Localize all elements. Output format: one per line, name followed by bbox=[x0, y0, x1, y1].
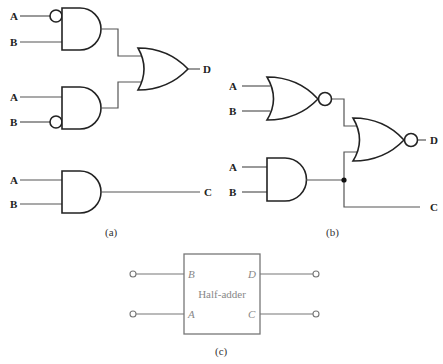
inverter-bubble-icon bbox=[405, 134, 418, 147]
figure-c-caption: (c) bbox=[215, 345, 228, 358]
port-label-c: C bbox=[248, 308, 256, 320]
output-label-d: D bbox=[430, 134, 438, 146]
inverter-bubble-icon bbox=[319, 93, 332, 106]
input-label-a: A bbox=[229, 161, 237, 173]
terminal-icon bbox=[130, 311, 136, 317]
input-label-a: A bbox=[10, 10, 18, 22]
figure-c: Half-adder B A D C (c) bbox=[130, 254, 319, 358]
output-label-c: C bbox=[204, 186, 212, 198]
nor-gate-2 bbox=[353, 118, 426, 161]
figure-b-caption: (b) bbox=[326, 226, 339, 239]
terminal-icon bbox=[130, 271, 136, 277]
and-gate-4 bbox=[242, 158, 344, 201]
input-label-b: B bbox=[229, 105, 237, 117]
junction-dot-icon bbox=[341, 177, 346, 182]
half-adder-diagram: A B A B A B D C (a) bbox=[0, 0, 443, 364]
port-label-a: A bbox=[187, 308, 195, 320]
output-label-c: C bbox=[430, 201, 438, 213]
input-label-a: A bbox=[10, 91, 18, 103]
figure-a: A B A B A B D C (a) bbox=[10, 8, 212, 239]
input-label-a: A bbox=[229, 80, 237, 92]
terminal-icon bbox=[313, 311, 319, 317]
half-adder-label: Half-adder bbox=[198, 288, 246, 300]
terminal-icon bbox=[313, 271, 319, 277]
inverter-bubble-icon bbox=[50, 116, 62, 128]
figure-b: A B A B D C (b) bbox=[229, 77, 438, 239]
output-label-d: D bbox=[203, 63, 211, 75]
input-label-b: B bbox=[10, 198, 18, 210]
and-gate-1 bbox=[20, 8, 101, 50]
port-label-d: D bbox=[247, 268, 256, 280]
port-label-b: B bbox=[188, 268, 195, 280]
or-gate bbox=[138, 48, 200, 90]
input-label-b: B bbox=[229, 186, 237, 198]
inverter-bubble-icon bbox=[50, 10, 62, 22]
and-gate-3 bbox=[20, 171, 200, 213]
input-label-a: A bbox=[10, 174, 18, 186]
and-gate-2 bbox=[20, 87, 101, 129]
input-label-b: B bbox=[10, 36, 18, 48]
nor-gate-1 bbox=[242, 77, 332, 120]
figure-a-caption: (a) bbox=[105, 226, 118, 239]
input-label-b: B bbox=[10, 116, 18, 128]
